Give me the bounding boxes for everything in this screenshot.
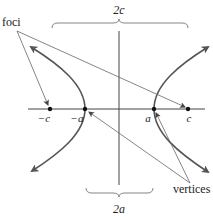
label-pos-c: c <box>187 112 192 124</box>
left-branch-upper <box>31 47 85 109</box>
foci-pointer-left <box>17 31 48 105</box>
label-2a: 2a <box>113 202 125 216</box>
focus-pos-c <box>186 107 190 111</box>
vertex-neg-a <box>83 107 87 111</box>
right-branch-upper <box>154 47 208 109</box>
hyperbola-diagram: foci vertices 2c 2a −c −a a c <box>0 0 213 217</box>
focus-neg-c <box>48 107 52 111</box>
label-neg-c: −c <box>38 112 50 124</box>
foci-pointer-right <box>17 31 185 107</box>
label-pos-a: a <box>145 112 151 124</box>
vertex-pos-a <box>152 107 156 111</box>
label-2c: 2c <box>113 3 125 17</box>
brace-2a <box>86 188 153 197</box>
brace-2c <box>52 19 188 28</box>
label-neg-a: −a <box>71 112 84 124</box>
label-vertices: vertices <box>173 182 211 196</box>
vertices-pointer-right <box>156 113 190 183</box>
label-foci: foci <box>2 15 21 29</box>
right-branch-lower <box>154 109 208 172</box>
